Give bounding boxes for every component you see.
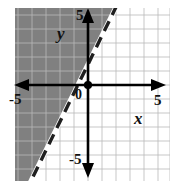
x-axis-min-tick-label: -5 [9,92,22,107]
coordinate-plane-figure: 5 -5 5 -5 0 y x [0,0,173,183]
y-axis-name-label: y [57,25,65,42]
x-axis-max-tick-label: 5 [154,93,162,108]
y-axis-min-tick-label: -5 [69,152,82,167]
origin-label: 0 [75,88,82,102]
graph-canvas [0,0,173,183]
y-axis-max-tick-label: 5 [76,8,84,23]
x-axis-name-label: x [134,110,143,127]
origin-point [84,81,92,89]
